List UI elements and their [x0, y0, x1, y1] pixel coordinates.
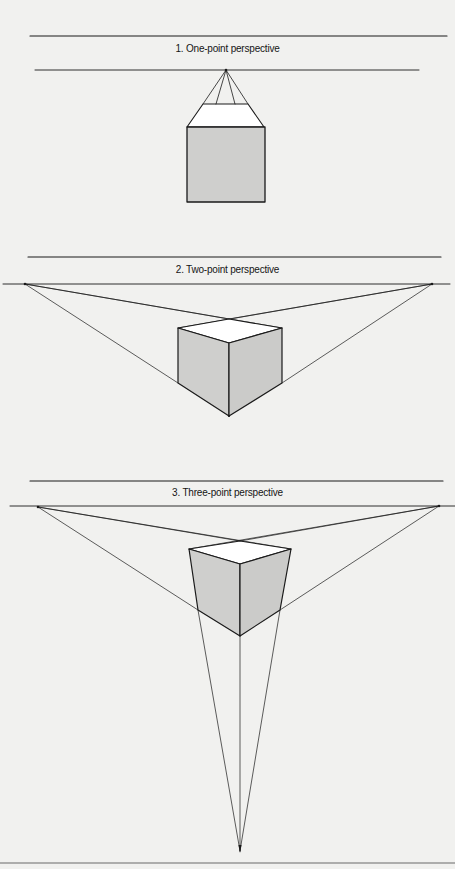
vanishing-point-right — [431, 283, 434, 286]
two-point-diagram — [3, 257, 450, 417]
one-point-diagram — [30, 36, 447, 202]
section-title-two-point: 2. Two-point perspective — [0, 264, 455, 275]
cube-corner — [228, 415, 230, 417]
three-point-diagram — [10, 481, 455, 853]
section-title-one-point: 1. One-point perspective — [0, 43, 455, 54]
vanishing-point — [225, 69, 228, 72]
vanishing-point-right — [438, 505, 441, 508]
convergence-line — [226, 70, 235, 104]
cube-top-face-1 — [187, 104, 264, 127]
cube-left-face-3 — [189, 549, 240, 636]
convergence-line — [216, 70, 226, 104]
convergence-line — [280, 506, 439, 610]
cube-front-face-1 — [187, 127, 265, 202]
perspective-diagram-page: 1. One-point perspective 2. Two-point pe… — [0, 0, 455, 869]
convergence-line — [189, 506, 439, 549]
vanishing-point-bottom — [239, 845, 242, 853]
cube-left-face-2 — [178, 328, 229, 416]
convergence-line — [25, 284, 178, 383]
convergence-line — [240, 610, 280, 851]
cube-right-face-2 — [229, 328, 282, 416]
vanishing-point-left — [24, 283, 27, 286]
perspective-illustration — [0, 0, 455, 869]
convergence-line — [38, 507, 198, 610]
convergence-line — [198, 610, 240, 851]
vanishing-point-left — [37, 506, 40, 509]
convergence-line — [282, 284, 432, 383]
convergence-line — [203, 70, 226, 104]
section-title-three-point: 3. Three-point perspective — [0, 487, 455, 498]
cube-right-face-3 — [240, 549, 291, 636]
convergence-line — [226, 70, 248, 104]
